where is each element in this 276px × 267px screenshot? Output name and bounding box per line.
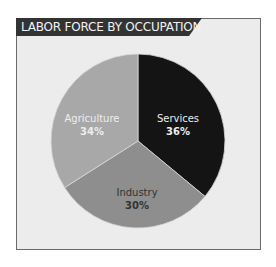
slice-pct-services: 36%: [157, 125, 199, 138]
slice-label-services: Services 36%: [157, 112, 199, 138]
pie-chart: [0, 0, 276, 267]
slice-label-agriculture: Agriculture 34%: [65, 112, 120, 138]
slice-name-services: Services: [157, 112, 199, 125]
slice-label-industry: Industry 30%: [116, 186, 157, 212]
slice-pct-agriculture: 34%: [65, 125, 120, 138]
slice-pct-industry: 30%: [116, 199, 157, 212]
slice-name-industry: Industry: [116, 186, 157, 199]
slice-name-agriculture: Agriculture: [65, 112, 120, 125]
